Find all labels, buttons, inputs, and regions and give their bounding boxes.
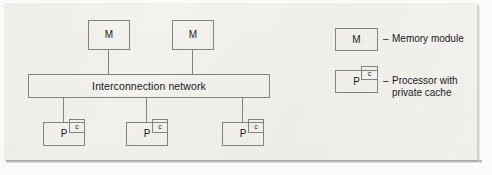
legend-cache-label: c [368, 70, 372, 77]
cache-label-1: c [75, 123, 79, 130]
memory-module-label-1: M [105, 30, 113, 40]
memory-module-box-1: M [88, 20, 130, 50]
legend-processor-dash: – [383, 75, 389, 87]
page-right-shadow [477, 5, 480, 162]
legend-memory-symbol-label: M [352, 35, 360, 45]
processor-label-1: P [61, 129, 68, 139]
legend-processor-description: Processor with private cache [392, 75, 458, 99]
cache-box-2: c [152, 119, 168, 133]
processor-label-2: P [144, 129, 151, 139]
processor-label-3: P [240, 129, 247, 139]
legend-memory-dash: – [383, 33, 389, 45]
cache-label-2: c [158, 123, 162, 130]
legend-cache-box: c [361, 66, 378, 80]
cache-box-3: c [248, 119, 264, 133]
memory-module-label-2: M [189, 30, 197, 40]
connector-memory-2-to-network [192, 50, 193, 74]
legend-memory-description: Memory module [392, 33, 464, 45]
page-bottom-shadow [6, 160, 482, 163]
connector-network-to-processor-2 [146, 98, 147, 122]
interconnection-network-label: Interconnection network [92, 81, 206, 92]
legend-memory-symbol-box: M [335, 28, 378, 51]
figure-canvas: M M Interconnection network P c P c P c … [0, 0, 492, 175]
connector-network-to-processor-3 [242, 98, 243, 122]
legend-processor-symbol-label: P [353, 77, 360, 87]
connector-network-to-processor-1 [63, 98, 64, 122]
cache-label-3: c [254, 123, 258, 130]
cache-box-1: c [69, 119, 85, 133]
connector-memory-1-to-network [108, 50, 109, 74]
interconnection-network-box: Interconnection network [28, 74, 270, 98]
memory-module-box-2: M [172, 20, 214, 50]
